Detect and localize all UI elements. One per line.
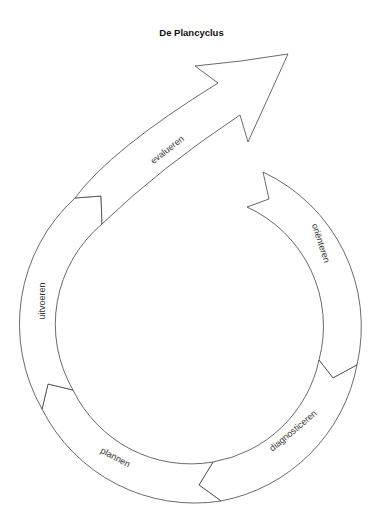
segment-uitvoeren (19, 196, 102, 409)
label-uitvoeren: uitvoeren (37, 282, 47, 319)
segment-diagnosticeren (199, 360, 357, 501)
segment-orienteren (247, 172, 361, 378)
segment-plannen (42, 384, 221, 503)
plan-cycle-diagram: oriënteren diagnosticeren plannen uitvoe… (0, 0, 383, 518)
